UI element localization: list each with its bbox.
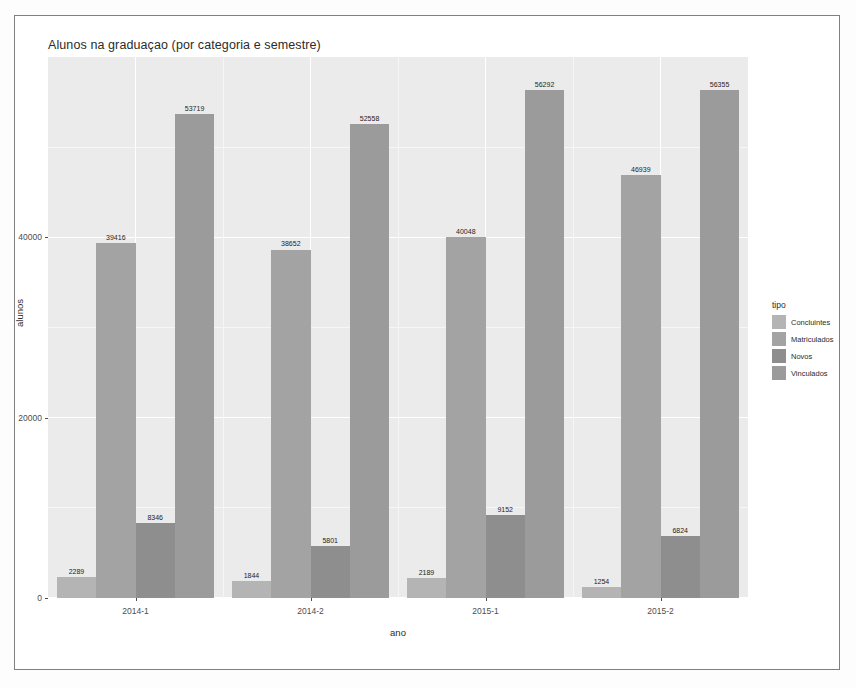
- legend-item-label: Novos: [791, 352, 812, 361]
- gridline-vertical-minor: [223, 57, 224, 598]
- bar-value-label: 1844: [244, 572, 260, 579]
- bar: [661, 536, 700, 598]
- bar: [621, 175, 660, 598]
- bar-value-label: 39416: [106, 234, 125, 241]
- legend-item-novos[interactable]: Novos: [772, 348, 834, 364]
- bar-value-label: 52558: [360, 115, 379, 122]
- x-tick-mark: [311, 598, 312, 601]
- legend-item-concluintes[interactable]: Concluintes: [772, 314, 834, 330]
- bar: [57, 577, 96, 598]
- bar-value-label: 2189: [419, 569, 435, 576]
- bar-value-label: 2289: [69, 568, 85, 575]
- x-tick-label: 2015-2: [647, 606, 673, 616]
- bar-value-label: 1254: [594, 578, 610, 585]
- x-axis-title: ano: [390, 627, 406, 638]
- bar: [486, 515, 525, 598]
- bar: [232, 581, 271, 598]
- x-tick-label: 2014-2: [297, 606, 323, 616]
- bar-value-label: 56292: [535, 81, 554, 88]
- x-tick-mark: [136, 598, 137, 601]
- gridline-vertical-minor: [573, 57, 574, 598]
- gridline-vertical-minor: [398, 57, 399, 598]
- legend-swatch-icon: [772, 366, 786, 380]
- bar-value-label: 8346: [147, 514, 163, 521]
- y-axis-title: alunos: [14, 299, 25, 327]
- chart-page: Alunos na graduaçao (por categoria e sem…: [0, 0, 856, 688]
- x-tick-mark: [661, 598, 662, 601]
- bar-value-label: 40048: [456, 228, 475, 235]
- bar: [525, 90, 564, 598]
- legend-item-label: Concluintes: [791, 318, 830, 327]
- bar: [407, 578, 446, 598]
- plot-panel: 2289394168346537191844386525801525582189…: [48, 57, 748, 598]
- legend: tipo ConcluintesMatriculadosNovosVincula…: [772, 300, 834, 382]
- y-tick-label: 40000: [18, 232, 42, 242]
- x-tick-label: 2014-1: [122, 606, 148, 616]
- legend-item-matriculados[interactable]: Matriculados: [772, 331, 834, 347]
- bar: [271, 250, 310, 599]
- bar: [175, 114, 214, 598]
- legend-swatch-icon: [772, 349, 786, 363]
- chart-title: Alunos na graduaçao (por categoria e sem…: [48, 38, 321, 52]
- bar: [136, 523, 175, 598]
- legend-swatch-icon: [772, 315, 786, 329]
- bar: [582, 587, 621, 598]
- x-tick-mark: [486, 598, 487, 601]
- bar-value-label: 46939: [631, 166, 650, 173]
- y-tick-mark: [45, 237, 48, 238]
- legend-item-label: Vinculados: [791, 369, 828, 378]
- bar-value-label: 53719: [185, 105, 204, 112]
- bar: [700, 90, 739, 598]
- legend-item-label: Matriculados: [791, 335, 834, 344]
- y-tick-label: 20000: [18, 413, 42, 423]
- bar-value-label: 9152: [497, 506, 513, 513]
- y-tick-label: 0: [37, 593, 42, 603]
- y-tick-mark: [45, 418, 48, 419]
- bar-value-label: 38652: [281, 240, 300, 247]
- legend-items: ConcluintesMatriculadosNovosVinculados: [772, 314, 834, 381]
- bar: [96, 243, 135, 598]
- legend-title: tipo: [772, 300, 834, 310]
- bar-value-label: 5801: [322, 537, 338, 544]
- legend-swatch-icon: [772, 332, 786, 346]
- bar: [446, 237, 485, 598]
- x-tick-label: 2015-1: [472, 606, 498, 616]
- y-tick-mark: [45, 598, 48, 599]
- bar-value-label: 6824: [672, 527, 688, 534]
- bar: [311, 546, 350, 598]
- bar: [350, 124, 389, 598]
- bar-value-label: 56355: [710, 81, 729, 88]
- legend-item-vinculados[interactable]: Vinculados: [772, 365, 834, 381]
